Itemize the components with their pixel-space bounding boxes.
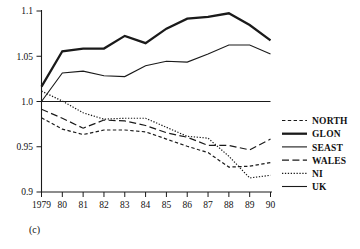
y-tick-label: 1.05 <box>16 52 33 62</box>
x-tick-label: 87 <box>203 200 213 210</box>
y-tick-label: 1.0 <box>21 97 33 107</box>
chart-legend: NORTHGLONSEASTWALESNIUK <box>282 116 348 192</box>
x-tick-label: 1979 <box>32 200 51 210</box>
x-tick-label: 88 <box>224 200 234 210</box>
x-tick-label: 85 <box>162 200 172 210</box>
x-tick-label: 84 <box>141 200 151 210</box>
legend-label-ni: NI <box>312 169 323 179</box>
figure-panel: 1.11.051.00.950.9 1979808182838485868788… <box>0 0 360 249</box>
x-axis-tick-marks <box>42 192 271 197</box>
legend-label-wales: WALES <box>312 156 346 166</box>
line-chart: 1.11.051.00.950.9 1979808182838485868788… <box>0 0 360 249</box>
series-line-wales <box>42 109 271 150</box>
legend-label-seast: SEAST <box>312 143 344 153</box>
legend-label-north: NORTH <box>312 116 348 126</box>
legend-label-uk: UK <box>312 182 327 192</box>
y-axis-tick-marks <box>37 11 42 192</box>
y-axis-labels: 1.11.051.00.950.9 <box>16 6 33 197</box>
series-line-seast <box>42 45 271 102</box>
x-tick-label: 90 <box>266 200 276 210</box>
series-line-ni <box>42 91 271 178</box>
y-tick-label: 0.9 <box>21 187 33 197</box>
x-tick-label: 89 <box>245 200 255 210</box>
legend-label-glon: GLON <box>312 129 341 139</box>
x-tick-label: 80 <box>58 200 68 210</box>
x-tick-label: 86 <box>182 200 192 210</box>
data-series-group <box>42 13 271 178</box>
series-line-glon <box>42 13 271 86</box>
x-tick-label: 83 <box>120 200 130 210</box>
y-tick-label: 1.1 <box>21 6 33 16</box>
x-tick-label: 82 <box>99 200 109 210</box>
x-axis-labels: 19798081828384858687888990 <box>32 200 276 210</box>
y-tick-label: 0.95 <box>16 142 33 152</box>
figure-caption: (c) <box>29 224 40 236</box>
x-tick-label: 81 <box>78 200 88 210</box>
